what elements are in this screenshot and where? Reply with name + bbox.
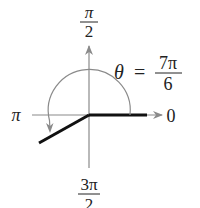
equals-sign: = bbox=[134, 61, 145, 83]
polar-angle-diagram: π 2 θ = 7π 6 π 0 3π 2 bbox=[0, 0, 200, 208]
theta-symbol: θ bbox=[114, 61, 124, 83]
label-3pi-over-2: 3π 2 bbox=[78, 175, 100, 208]
top-numerator: π bbox=[85, 3, 94, 22]
label-pi: π bbox=[11, 105, 21, 125]
bottom-denominator: 2 bbox=[85, 195, 94, 208]
label-pi-over-2: π 2 bbox=[80, 3, 98, 41]
terminal-side-ray bbox=[39, 115, 89, 143]
bottom-numerator: 3π bbox=[80, 175, 98, 194]
top-denominator: 2 bbox=[85, 22, 94, 41]
label-zero: 0 bbox=[167, 106, 176, 126]
theta-numerator: 7π bbox=[159, 53, 177, 73]
theta-denominator: 6 bbox=[164, 74, 173, 94]
